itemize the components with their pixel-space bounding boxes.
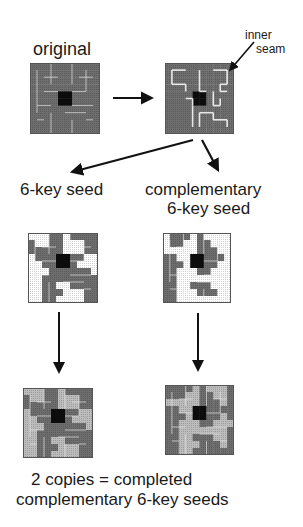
arrow-to-seed-icon [72,140,193,172]
arrow-to-comp-seed-icon [202,140,218,170]
arrows-layer [0,0,303,527]
inner-seam-pointer-arrow-icon [230,42,254,70]
